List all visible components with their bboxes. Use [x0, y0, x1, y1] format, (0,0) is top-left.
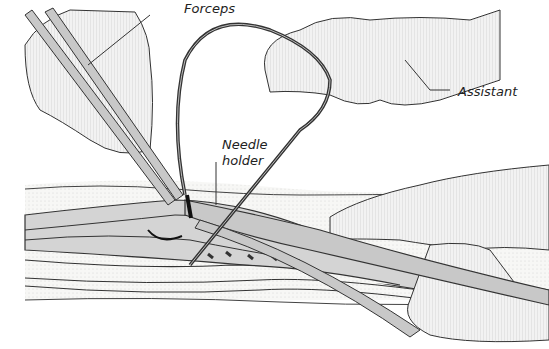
label-needle-holder-line1: Needle: [222, 137, 268, 153]
surgical-diagram: [0, 0, 549, 349]
label-forceps: Forceps: [184, 1, 235, 16]
label-needle-holder-line2: holder: [222, 153, 268, 169]
label-needle-holder: Needle holder: [222, 137, 268, 169]
label-assistant: Assistant: [458, 84, 517, 99]
